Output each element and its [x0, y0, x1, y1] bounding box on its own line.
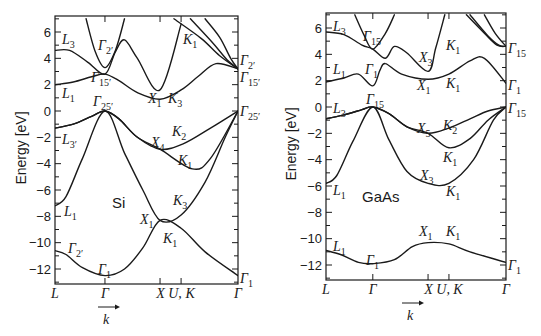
- symmetry-point-label: Γ15: [362, 29, 381, 47]
- y-tick-label: 6: [315, 21, 322, 36]
- symmetry-point-label: K1: [442, 150, 457, 168]
- symmetry-point-label: X1: [139, 212, 154, 230]
- symmetry-point-label: Γ2′: [239, 53, 255, 71]
- symmetry-point-label: K1: [445, 224, 460, 242]
- symmetry-point-label: L1: [332, 183, 346, 201]
- band-curve: [470, 15, 506, 47]
- gaas-material-label: GaAs: [362, 188, 400, 205]
- gaas-symmetry-labels: L3Γ15X3K1Γ15L1Γ1X1K1Γ1L3Γ15Γ15X5K2K1X3K1…: [332, 19, 526, 276]
- symmetry-point-label: K3: [172, 193, 187, 211]
- symmetry-point-label: Γ25′: [239, 104, 260, 122]
- k-point-label: Γ: [233, 286, 243, 301]
- si-k-label: k: [103, 312, 110, 327]
- y-tick-label: 0: [44, 104, 51, 119]
- symmetry-point-label: K2: [171, 124, 186, 142]
- symmetry-point-label: K1: [162, 231, 177, 249]
- y-tick-label: −10: [300, 231, 322, 246]
- symmetry-point-label: Γ15: [507, 41, 526, 59]
- symmetry-point-label: K1: [445, 38, 460, 56]
- symmetry-point-label: Γ2′: [97, 38, 113, 56]
- y-tick-label: −6: [36, 183, 51, 198]
- y-tick-label: 2: [44, 77, 51, 92]
- gaas-k-arrow: k: [402, 301, 424, 324]
- y-tick-label: 4: [315, 47, 322, 62]
- y-tick-label: −8: [36, 209, 51, 224]
- symmetry-point-label: X5: [416, 121, 431, 139]
- symmetry-point-label: Γ1: [365, 253, 379, 271]
- symmetry-point-label: Γ1: [507, 258, 521, 276]
- y-tick-label: −2: [36, 130, 51, 145]
- symmetry-point-label: L1: [61, 86, 75, 104]
- k-point-label: Γ: [100, 286, 110, 301]
- arrowhead-icon: [115, 305, 120, 310]
- si-bands: [55, 19, 238, 276]
- band-curve: [466, 15, 506, 47]
- symmetry-point-label: X1: [147, 91, 162, 109]
- gaas-y-axis-label: Energy [eV]: [283, 107, 299, 180]
- si-band-panel: 6420−2−4−6−8−10−12LΓX U,KΓ L3Γ2′K1Γ2′Γ15…: [29, 16, 260, 301]
- symmetry-point-label: K1: [445, 76, 460, 94]
- symmetry-point-label: L3: [332, 19, 346, 37]
- plot-frame: [326, 13, 506, 280]
- symmetry-point-label: K3: [167, 91, 182, 109]
- k-point-label: L: [321, 282, 330, 297]
- symmetry-point-label: L3: [61, 32, 75, 50]
- y-tick-label: −10: [29, 235, 51, 250]
- y-tick-label: −6: [307, 179, 322, 194]
- y-tick-label: −8: [307, 205, 322, 220]
- symmetry-point-label: K1: [177, 153, 192, 171]
- band-curve: [190, 19, 238, 69]
- symmetry-point-label: K1: [182, 32, 197, 50]
- y-tick-label: 4: [44, 51, 51, 66]
- k-point-label: X U,: [155, 286, 182, 301]
- symmetry-point-label: K2: [442, 118, 457, 136]
- gaas-k-label: k: [407, 308, 414, 323]
- k-point-label: X U,: [423, 282, 450, 297]
- symmetry-point-label: Γ25′: [92, 94, 113, 112]
- symmetry-point-label: L3′: [61, 132, 77, 150]
- symmetry-point-label: X1: [418, 224, 433, 242]
- plot-frame: [55, 16, 238, 284]
- y-tick-label: −12: [300, 258, 322, 273]
- si-symmetry-labels: L3Γ2′K1Γ2′Γ15′Γ15′L1X1K3Γ25′Γ25′L3′X4K2K…: [61, 32, 260, 289]
- k-point-label: L: [50, 286, 59, 301]
- arrowhead-icon: [419, 301, 424, 306]
- symmetry-point-label: X4: [150, 135, 165, 153]
- symmetry-point-label: Γ1: [507, 78, 521, 96]
- y-tick-label: 6: [44, 25, 51, 40]
- si-k-arrow: k: [98, 305, 120, 328]
- symmetry-point-label: K1: [445, 184, 460, 202]
- k-point-label: Γ: [501, 282, 511, 297]
- y-tick-label: −2: [307, 126, 322, 141]
- symmetry-point-label: X3: [418, 50, 433, 68]
- band-curve: [205, 19, 238, 69]
- symmetry-point-label: L1: [332, 62, 346, 80]
- k-point-label: K: [452, 282, 463, 297]
- y-tick-label: −4: [307, 152, 322, 167]
- y-tick-label: −4: [36, 156, 51, 171]
- band-curve: [326, 107, 506, 186]
- k-point-label: K: [184, 286, 195, 301]
- symmetry-point-label: Γ15: [507, 101, 526, 119]
- symmetry-point-label: L1: [63, 204, 77, 222]
- si-y-axis-label: Energy [eV]: [13, 111, 29, 184]
- symmetry-point-label: Γ1: [364, 62, 378, 80]
- y-tick-label: 0: [315, 100, 322, 115]
- si-material-label: Si: [112, 194, 125, 211]
- band-curve: [55, 111, 238, 149]
- band-curve: [55, 63, 238, 99]
- gaas-bands: [326, 15, 506, 264]
- k-point-label: Γ: [368, 282, 378, 297]
- y-tick-label: −12: [29, 262, 51, 277]
- symmetry-point-label: Γ15′: [239, 70, 260, 88]
- band-curve: [326, 242, 506, 263]
- symmetry-point-label: Γ1: [97, 262, 111, 280]
- y-tick-label: 2: [315, 73, 322, 88]
- gaas-band-panel: 6420−2−4−6−8−10−12LΓX U,KΓ L3Γ15X3K1Γ15L…: [300, 13, 526, 297]
- symmetry-point-label: X1: [416, 78, 431, 96]
